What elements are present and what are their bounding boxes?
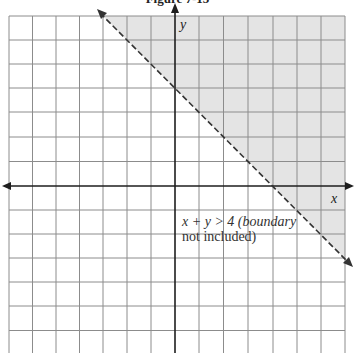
x-axis-left-arrow-icon — [2, 182, 11, 190]
coordinate-plane: y x — [0, 0, 355, 353]
annotation-line-2: not included) — [182, 229, 322, 244]
x-axis-right-arrow-icon — [345, 182, 354, 190]
annotation-line-1: x + y > 4 (boundary — [182, 214, 322, 229]
inequality-graph-figure: Figure 7-15 — [0, 0, 355, 353]
y-axis-label: y — [178, 17, 187, 32]
x-axis-label: x — [330, 191, 338, 206]
y-axis-up-arrow-icon — [171, 3, 179, 13]
inequality-annotation: x + y > 4 (boundary not included) — [182, 214, 322, 244]
